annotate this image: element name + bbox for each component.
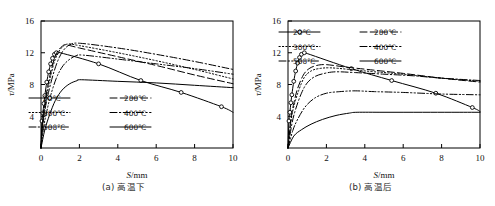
data-marker	[434, 91, 438, 95]
x-tick-label: 8	[192, 153, 197, 163]
data-marker	[220, 105, 224, 109]
panel-b-after-high-temperature: 0246810481216S/mmτ/MPa20℃200℃300℃400℃500…	[247, 0, 494, 206]
data-marker	[179, 91, 183, 95]
legend-label: 20℃	[293, 28, 311, 37]
series-line-200℃	[288, 65, 480, 148]
x-axis-title: S/mm	[373, 170, 394, 180]
legend-label: 400℃	[124, 109, 146, 118]
chart-b-svg: 0246810481216S/mmτ/MPa20℃200℃300℃400℃500…	[247, 0, 494, 180]
x-tick-label: 10	[476, 153, 486, 163]
legend-label: 200℃	[124, 94, 146, 103]
chart-a-plot: 0246810481216S/mmτ/MPa20℃200℃300℃400℃500…	[6, 16, 238, 180]
panel-a-caption: (a) 高温下	[0, 180, 247, 192]
chart-b-plot: 0246810481216S/mmτ/MPa20℃200℃300℃400℃500…	[253, 16, 485, 180]
y-tick-label: 8	[30, 80, 35, 90]
series-line-20℃	[288, 52, 480, 148]
series-line-600℃	[288, 112, 480, 148]
y-tick-label: 8	[277, 80, 282, 90]
legend-item-500℃: 500℃	[279, 57, 320, 66]
legend-label: 400℃	[374, 43, 396, 52]
legend-item-200℃: 200℃	[110, 94, 151, 103]
data-marker	[289, 101, 293, 105]
x-tick-label: 0	[39, 153, 44, 163]
data-marker	[51, 56, 55, 60]
legend-item-20℃: 20℃	[29, 94, 70, 103]
legend-label: 500℃	[43, 123, 65, 132]
data-marker	[294, 69, 298, 73]
data-marker	[470, 106, 474, 110]
series-line-400℃	[288, 72, 480, 148]
legend-item-600℃: 600℃	[360, 57, 401, 66]
x-tick-label: 0	[286, 153, 291, 163]
y-axis-title: τ/MPa	[6, 73, 16, 96]
x-axis-title: S/mm	[126, 170, 147, 180]
chart-a-svg: 0246810481216S/mmτ/MPa20℃200℃300℃400℃500…	[0, 0, 247, 180]
legend-label: 20℃	[43, 94, 61, 103]
y-tick-label: 16	[25, 16, 35, 26]
y-tick-label: 4	[30, 112, 35, 122]
x-tick-label: 4	[116, 153, 121, 163]
y-tick-label: 16	[272, 16, 282, 26]
data-marker	[290, 93, 294, 97]
legend-label: 300℃	[293, 43, 315, 52]
legend-item-600℃: 600℃	[110, 123, 151, 132]
x-tick-label: 6	[154, 153, 159, 163]
legend-label: 200℃	[374, 28, 396, 37]
legend-label: 300℃	[43, 109, 65, 118]
legend-label: 500℃	[293, 57, 315, 66]
x-tick-label: 2	[324, 153, 329, 163]
legend-item-20℃: 20℃	[279, 28, 320, 37]
legend-item-300℃: 300℃	[279, 43, 320, 52]
y-tick-label: 12	[25, 48, 34, 58]
y-tick-label: 4	[277, 112, 282, 122]
legend-item-300℃: 300℃	[29, 109, 70, 118]
x-tick-label: 8	[439, 153, 444, 163]
axes-frame	[288, 21, 480, 148]
legend-item-500℃: 500℃	[29, 123, 70, 132]
x-tick-label: 2	[77, 153, 82, 163]
y-tick-label: 12	[272, 48, 281, 58]
series-line-300℃	[288, 68, 480, 148]
x-tick-label: 4	[363, 153, 368, 163]
data-marker	[292, 79, 296, 83]
x-tick-label: 10	[229, 153, 239, 163]
data-marker	[97, 62, 101, 66]
panel-a-high-temperature: 0246810481216S/mmτ/MPa20℃200℃300℃400℃500…	[0, 0, 247, 206]
y-axis-title: τ/MPa	[253, 73, 263, 96]
legend-label: 600℃	[124, 123, 146, 132]
legend-item-400℃: 400℃	[360, 43, 401, 52]
x-tick-label: 6	[401, 153, 406, 163]
legend-label: 600℃	[374, 57, 396, 66]
data-marker	[390, 79, 394, 83]
panel-b-caption: (b) 高温后	[247, 180, 494, 192]
legend-item-400℃: 400℃	[110, 109, 151, 118]
figure-bond-stress-slip: 0246810481216S/mmτ/MPa20℃200℃300℃400℃500…	[0, 0, 495, 206]
legend-item-200℃: 200℃	[360, 28, 401, 37]
